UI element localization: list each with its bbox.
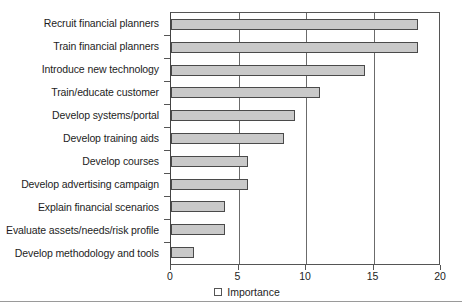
category-label: Evaluate assets/needs/risk profile [0,219,166,242]
category-label: Introduce new technology [0,58,166,81]
category-label: Develop advertising campaign [0,173,166,196]
legend: Importance [0,286,462,298]
bar-row [171,59,439,82]
bar [171,201,225,212]
x-axis-tick-label: 5 [235,270,241,282]
category-label: Develop training aids [0,127,166,150]
bar-row [171,150,439,173]
bar-row [171,196,439,219]
x-axis-tick-label: 20 [434,270,446,282]
bar [171,42,418,53]
category-label: Develop courses [0,150,166,173]
bar-row [171,36,439,59]
bar [171,87,320,98]
plot-area [170,12,440,265]
category-label: Train financial planners [0,35,166,58]
bar [171,110,295,121]
category-label: Explain financial scenarios [0,196,166,219]
legend-label: Importance [227,286,280,298]
bar [171,179,248,190]
x-axis-tick-label: 15 [367,270,379,282]
bar-row [171,173,439,196]
bar-row [171,127,439,150]
bar-row [171,218,439,241]
category-label: Develop methodology and tools [0,242,166,265]
category-label: Recruit financial planners [0,12,166,35]
bar [171,19,418,30]
category-label: Train/educate customer [0,81,166,104]
bar [171,133,284,144]
category-label: Develop systems/portal [0,104,166,127]
bar [171,247,194,258]
bar [171,65,365,76]
legend-entry: Importance [214,286,280,298]
bottom-divider [0,301,462,302]
bar-row [171,104,439,127]
bar-chart: Recruit financial planners Train financi… [0,0,462,307]
x-axis-tick-label: 0 [167,270,173,282]
bar-row [171,81,439,104]
bar-row [171,13,439,36]
bar-rows [171,13,439,264]
legend-swatch-icon [214,288,222,296]
bar [171,156,248,167]
bar-row [171,241,439,264]
bar [171,224,225,235]
category-axis-labels: Recruit financial planners Train financi… [0,12,166,265]
x-axis-tick-label: 10 [299,270,311,282]
